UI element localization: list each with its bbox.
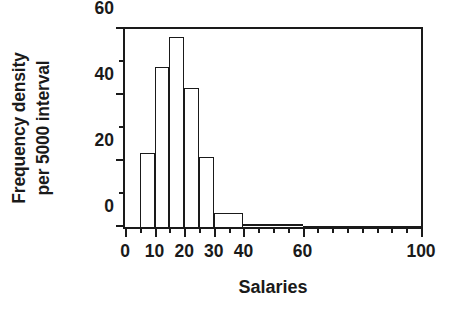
histogram-figure: Frequency density per 5000 interval 0204…	[0, 0, 453, 310]
y-axis-tick	[116, 27, 125, 29]
x-axis-tick-label: 40	[234, 241, 253, 262]
x-axis-tick-label: 60	[293, 241, 312, 262]
x-axis-minor-tick	[273, 227, 275, 233]
y-axis-tick	[116, 225, 125, 227]
x-axis-minor-tick	[229, 227, 231, 233]
x-axis-tick-label: 100	[406, 241, 435, 262]
x-axis-tick-label: 30	[204, 241, 223, 262]
histogram-bar	[214, 213, 244, 227]
x-axis-tick-label: 10	[145, 241, 164, 262]
x-axis-minor-tick	[391, 227, 393, 233]
y-axis-title-line-1: Frequency density	[6, 16, 32, 240]
y-axis-minor-tick	[119, 126, 125, 128]
x-axis-tick	[155, 227, 157, 237]
histogram-bar	[140, 153, 155, 227]
y-axis-tick-label: 0	[104, 196, 114, 217]
x-axis-minor-tick	[347, 227, 349, 233]
x-axis-tick	[184, 227, 186, 237]
x-axis-minor-tick	[332, 227, 334, 233]
x-axis-minor-tick	[362, 227, 364, 233]
x-axis-tick	[421, 227, 423, 237]
y-axis-tick-label: 40	[95, 64, 114, 85]
x-axis-tick	[303, 227, 305, 237]
y-axis-tick-label: 20	[95, 130, 114, 151]
y-axis-title: Frequency density per 5000 interval	[4, 16, 56, 240]
y-axis-minor-tick	[119, 60, 125, 62]
y-axis-tick	[116, 93, 125, 95]
x-axis-minor-tick	[169, 227, 171, 233]
bars-group	[125, 29, 421, 227]
x-axis-minor-tick	[288, 227, 290, 233]
y-axis-tick-label: 60	[95, 0, 114, 19]
x-axis-minor-tick	[406, 227, 408, 233]
x-axis-tick-label: 0	[120, 241, 130, 262]
x-axis-tick-label: 20	[174, 241, 193, 262]
x-axis-minor-tick	[317, 227, 319, 233]
histogram-bar	[199, 157, 214, 227]
x-axis-minor-tick	[377, 227, 379, 233]
histogram-bar	[155, 67, 170, 227]
x-axis-tick	[125, 227, 127, 237]
y-axis-title-line-2: per 5000 interval	[30, 16, 56, 240]
plot-area: 020406001020304060100	[123, 27, 423, 229]
x-axis-minor-tick	[199, 227, 201, 233]
x-axis-tick	[214, 227, 216, 237]
x-axis-minor-tick	[258, 227, 260, 233]
histogram-bar	[169, 37, 184, 227]
y-axis-tick	[116, 159, 125, 161]
histogram-bar	[184, 88, 199, 227]
x-axis-tick	[243, 227, 245, 237]
x-axis-title: Salaries	[123, 277, 423, 298]
x-axis-minor-tick	[140, 227, 142, 233]
y-axis-minor-tick	[119, 192, 125, 194]
